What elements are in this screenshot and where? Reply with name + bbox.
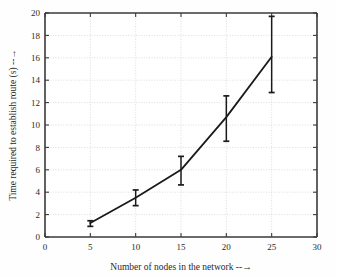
tick-label-y: 12 [31, 98, 40, 108]
tick-label-x: 20 [222, 242, 232, 252]
tick-label-y: 8 [36, 143, 41, 153]
tick-label-y: 0 [36, 232, 41, 242]
tick-label-y: 10 [31, 120, 41, 130]
tick-label-y: 14 [31, 75, 41, 85]
tick-label-y: 18 [31, 31, 41, 41]
line-chart: 02468101214161820 051015202530 Number of… [0, 0, 337, 278]
tick-label-y: 2 [36, 210, 41, 220]
tick-label-y: 6 [36, 165, 41, 175]
tick-label-y: 20 [31, 8, 41, 18]
tick-label-y: 4 [36, 187, 41, 197]
x-axis-label: Number of nodes in the network --→ [110, 262, 251, 272]
tick-label-x: 10 [131, 242, 141, 252]
figure-container: 02468101214161820 051015202530 Number of… [0, 0, 337, 278]
tick-label-y: 16 [31, 53, 41, 63]
tick-label-x: 0 [43, 242, 48, 252]
tick-label-x: 5 [88, 242, 93, 252]
y-axis-label: Time required to establish route (s) --→ [8, 49, 19, 201]
tick-label-x: 30 [313, 242, 323, 252]
tick-label-x: 25 [267, 242, 277, 252]
tick-label-x: 15 [177, 242, 187, 252]
